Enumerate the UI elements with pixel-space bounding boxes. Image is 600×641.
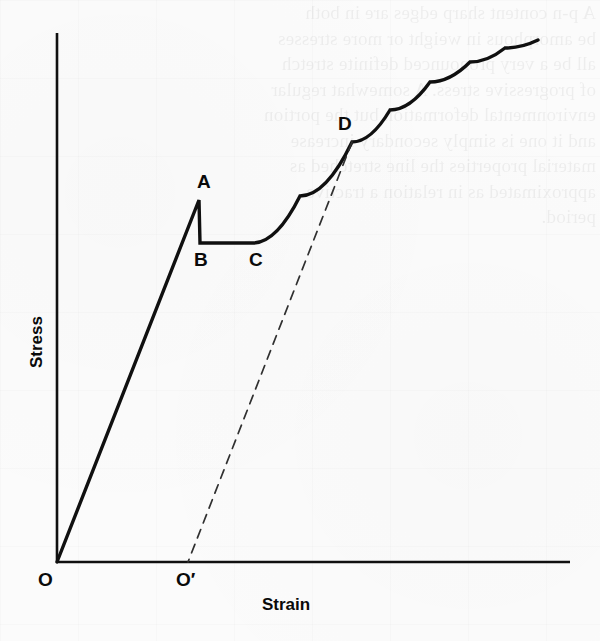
unloading-line xyxy=(188,142,352,562)
origin-label: O xyxy=(38,570,53,589)
y-axis-title: Stress xyxy=(28,316,45,368)
x-axis-title: Strain xyxy=(262,596,310,613)
origin-prime-label: O′ xyxy=(176,570,195,589)
point-label-a: A xyxy=(197,172,211,191)
point-label-b: B xyxy=(194,250,208,269)
stress-strain-figure: A p-n content sharp edges are in both be… xyxy=(0,0,600,641)
point-label-d: D xyxy=(338,114,352,133)
data-series xyxy=(57,40,538,562)
plot-canvas xyxy=(0,0,600,641)
stress-strain-curve xyxy=(57,40,538,562)
axes xyxy=(57,33,570,562)
point-label-c: C xyxy=(249,250,263,269)
